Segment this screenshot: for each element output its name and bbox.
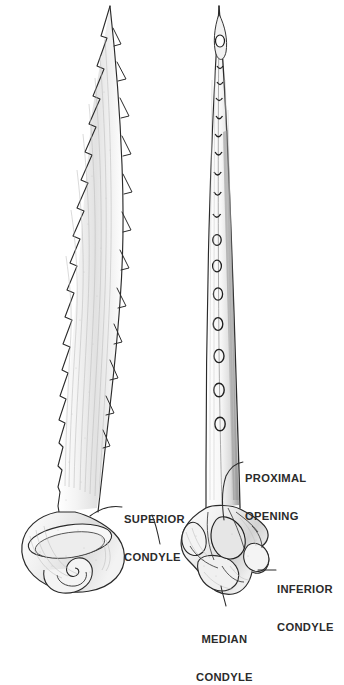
- label-superior-condyle: SUPERIOR CONDYLE: [124, 488, 185, 589]
- label-inferior-condyle-line-1: INFERIOR: [277, 583, 334, 596]
- label-proximal-opening: PROXIMAL OPENING: [245, 447, 306, 548]
- label-proximal-opening-line-1: PROXIMAL: [245, 472, 306, 485]
- label-median-condyle-line-2: CONDYLE: [196, 671, 253, 684]
- label-inferior-condyle-line-2: CONDYLE: [277, 621, 334, 634]
- right-tip-pore: [216, 35, 225, 47]
- label-proximal-opening-line-2: OPENING: [245, 510, 306, 523]
- label-inferior-condyle: INFERIOR CONDYLE: [277, 558, 334, 659]
- label-superior-condyle-line-1: SUPERIOR: [124, 513, 185, 526]
- label-median-condyle: MEDIAN CONDYLE: [196, 608, 253, 685]
- label-superior-condyle-line-2: CONDYLE: [124, 551, 185, 564]
- label-median-condyle-line-1: MEDIAN: [196, 633, 253, 646]
